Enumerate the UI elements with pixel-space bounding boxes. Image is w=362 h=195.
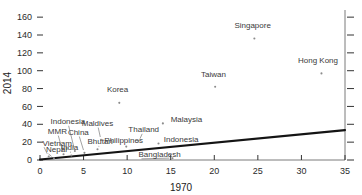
- x-tick-label: 5: [81, 166, 86, 176]
- data-point-label: Bhutan: [87, 137, 112, 146]
- data-point-marker: [253, 38, 255, 40]
- data-point-label: Hong Kong: [298, 56, 338, 65]
- x-tick-label: 15: [166, 166, 176, 176]
- data-point-label: Taiwan: [201, 70, 226, 79]
- data-point-label: Bangladesh: [138, 150, 180, 159]
- x-axis-ticks: 05101520253035: [37, 155, 350, 176]
- data-point-marker: [70, 154, 72, 156]
- data-point-label: Malaysia: [171, 115, 203, 124]
- x-tick-label: 30: [296, 166, 306, 176]
- y-tick-label: 80: [22, 84, 32, 94]
- data-point-label: Singapore: [234, 21, 271, 30]
- y-tick-label: 140: [17, 30, 32, 40]
- data-point-marker: [48, 155, 50, 157]
- data-point-label: Thailand: [128, 125, 159, 134]
- x-tick-label: 0: [37, 166, 42, 176]
- chart-canvas: 05101520253035 020406080100120140160 Sin…: [0, 0, 362, 195]
- data-point-label: China: [68, 128, 89, 137]
- data-point-label: Korea: [107, 85, 129, 94]
- data-point-label: Nepal: [46, 145, 67, 154]
- y-axis-ticks: 020406080100120140160: [17, 12, 43, 165]
- scatter-chart: 05101520253035 020406080100120140160 Sin…: [0, 0, 362, 195]
- data-point-marker: [320, 72, 322, 74]
- data-point-label: Indonesia: [164, 135, 199, 144]
- data-point-marker: [125, 146, 127, 148]
- data-point-marker: [96, 148, 98, 150]
- data-point-label: MMR: [48, 127, 67, 136]
- data-point-marker: [53, 157, 55, 159]
- x-tick-label: 20: [209, 166, 219, 176]
- x-tick-label: 10: [122, 166, 132, 176]
- y-tick-label: 40: [22, 119, 32, 129]
- x-axis-title: 1970: [170, 182, 193, 193]
- label-leader-line: [79, 137, 83, 151]
- data-point-marker: [118, 102, 120, 104]
- y-tick-label: 160: [17, 12, 32, 22]
- y-tick-label: 20: [22, 137, 32, 147]
- data-point-marker: [157, 142, 159, 144]
- data-point-label: Maldives: [82, 119, 114, 128]
- data-point-marker: [214, 86, 216, 88]
- data-point-labels: SingaporeHong KongTaiwanKoreaMalaysiaMal…: [43, 21, 338, 159]
- right-axis-ticks: [347, 17, 354, 160]
- data-point-marker: [162, 122, 164, 124]
- x-tick-label: 35: [340, 166, 350, 176]
- label-leader-line: [98, 128, 100, 137]
- data-point-marker: [83, 152, 85, 154]
- y-axis-title: 2014: [2, 71, 13, 94]
- y-tick-label: 60: [22, 102, 32, 112]
- x-tick-label: 25: [253, 166, 263, 176]
- y-tick-label: 100: [17, 66, 32, 76]
- y-tick-label: 120: [17, 48, 32, 58]
- data-point-label: Indonesia: [51, 117, 86, 126]
- y-tick-label: 0: [27, 155, 32, 165]
